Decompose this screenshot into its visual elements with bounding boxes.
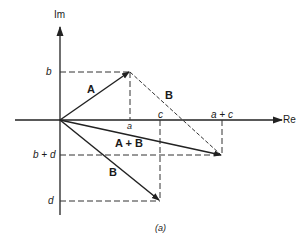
x-axis-label: Re (283, 115, 296, 125)
label-vector-b-translated: B (165, 90, 173, 101)
label-vector-a-plus-b: A + B (115, 138, 143, 149)
tick-b-plus-d: b + d (33, 150, 56, 160)
tick-c: c (158, 110, 163, 120)
label-vector-b: B (109, 167, 117, 178)
tick-a: a (127, 122, 132, 131)
figure-caption: (a) (155, 224, 166, 233)
vector-a (60, 72, 129, 120)
vector-b (60, 120, 159, 200)
tick-b: b (46, 67, 52, 77)
label-vector-a: A (87, 84, 95, 95)
vector-addition-diagram (0, 0, 299, 248)
tick-a-plus-c: a + c (211, 110, 233, 120)
tick-d: d (48, 196, 54, 206)
vector-b-translated (130, 72, 220, 154)
y-axis-label: Im (54, 10, 65, 20)
